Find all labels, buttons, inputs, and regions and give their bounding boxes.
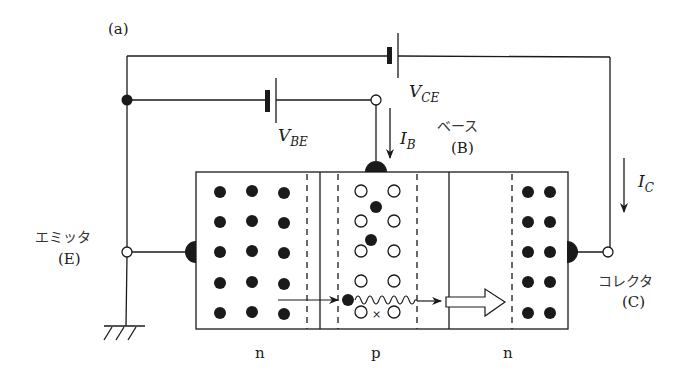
vce-battery-icon [387, 33, 398, 78]
collector-contact [567, 241, 578, 263]
ib-label: IB [399, 128, 416, 152]
vce-label: VCE [409, 81, 439, 105]
region-label-emitter: n [255, 344, 265, 362]
panel-label: (a) [108, 20, 129, 38]
region-label-base: p [371, 344, 381, 362]
wave-icon [355, 296, 417, 304]
base-name-label: ベース [437, 118, 478, 134]
collector-electrons [522, 186, 556, 319]
collector-abbr-label: (C) [622, 293, 645, 311]
junction-dot [122, 95, 133, 106]
transistor-diagram: (a) VCE VBE [0, 0, 690, 387]
collector-name-label: コレクタ [598, 273, 653, 289]
region-label-collector: n [503, 344, 513, 362]
emitter-abbr-label: (E) [58, 250, 81, 268]
emitter-ground-wire [126, 256, 127, 326]
ic-label: IC [637, 171, 654, 195]
base-contact [365, 161, 387, 172]
collector-terminal [603, 247, 613, 257]
circuit-wires [126, 56, 610, 326]
base-terminal [371, 95, 381, 105]
emitter-contact [185, 241, 196, 263]
vce-wire-right [398, 56, 610, 57]
collection-arrow-icon [446, 289, 505, 316]
ground-icon [104, 326, 145, 340]
base-abbr-label: (B) [451, 139, 474, 157]
emitter-name-label: エミッタ [35, 229, 91, 245]
vbe-battery-icon [265, 78, 276, 123]
vbe-label: VBE [278, 125, 308, 149]
recombination-mark: × [372, 308, 381, 321]
emitter-terminal [122, 247, 132, 257]
